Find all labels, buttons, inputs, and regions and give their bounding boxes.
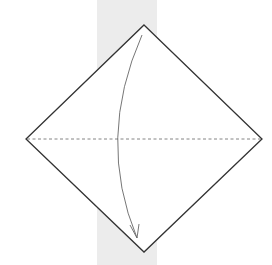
paper-square bbox=[26, 25, 262, 252]
origami-diagram bbox=[0, 0, 272, 265]
